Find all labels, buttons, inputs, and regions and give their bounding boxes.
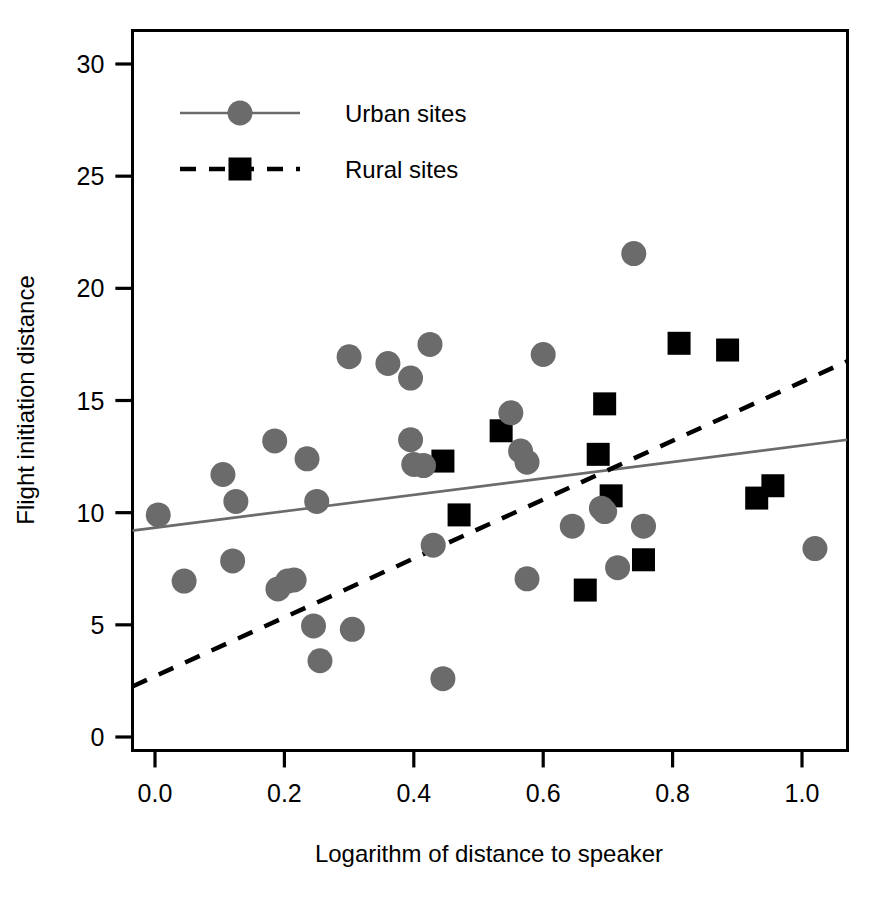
urban-data-point — [421, 533, 446, 558]
legend-label: Rural sites — [345, 156, 458, 183]
urban-data-point — [340, 617, 365, 642]
y-tick-label: 20 — [77, 274, 105, 302]
rural-data-point — [593, 392, 616, 415]
x-tick-label: 0.6 — [526, 779, 561, 807]
urban-data-point — [375, 351, 400, 376]
urban-data-point — [398, 366, 423, 391]
urban-data-point — [223, 489, 248, 514]
rural-data-point — [761, 474, 784, 497]
x-axis-title: Logarithm of distance to speaker — [315, 840, 663, 867]
urban-data-point — [304, 489, 329, 514]
x-tick-label: 1.0 — [785, 779, 820, 807]
x-tick-label: 0.2 — [267, 779, 302, 807]
urban-data-point — [515, 450, 540, 475]
x-tick-label: 0.0 — [138, 779, 173, 807]
urban-data-point — [560, 514, 585, 539]
rural-data-point — [668, 332, 691, 355]
urban-data-point — [210, 462, 235, 487]
y-tick-label: 10 — [77, 499, 105, 527]
rural-data-point — [574, 579, 597, 602]
urban-data-point — [337, 344, 362, 369]
x-tick-label: 0.8 — [655, 779, 690, 807]
y-axis-title: Flight initiation distance — [12, 275, 39, 524]
legend-label: Urban sites — [345, 100, 466, 127]
urban-data-point — [621, 241, 646, 266]
urban-data-point — [146, 502, 171, 527]
legend-square-marker — [229, 158, 252, 181]
urban-data-point — [592, 499, 617, 524]
x-tick-label: 0.4 — [396, 779, 431, 807]
urban-data-point — [498, 400, 523, 425]
urban-data-point — [605, 555, 630, 580]
urban-data-point — [282, 567, 307, 592]
y-tick-label: 5 — [90, 611, 104, 639]
urban-data-point — [301, 613, 326, 638]
urban-data-point — [631, 514, 656, 539]
urban-data-point — [398, 427, 423, 452]
urban-data-point — [220, 548, 245, 573]
y-tick-label: 30 — [77, 50, 105, 78]
rural-data-point — [448, 503, 471, 526]
y-tick-label: 0 — [90, 723, 104, 751]
scatter-plot-figure: 0.00.20.40.60.81.0 051015202530 Urban si… — [0, 0, 879, 900]
urban-data-point — [417, 332, 442, 357]
plot-canvas: 0.00.20.40.60.81.0 051015202530 Urban si… — [0, 0, 879, 900]
urban-data-point — [295, 446, 320, 471]
urban-data-point — [515, 566, 540, 591]
y-tick-label: 25 — [77, 162, 105, 190]
urban-data-point — [802, 536, 827, 561]
urban-data-point — [307, 648, 332, 673]
rural-data-point — [632, 548, 655, 571]
rural-data-point — [587, 443, 610, 466]
urban-data-point — [531, 342, 556, 367]
urban-data-point — [262, 428, 287, 453]
legend-circle-marker — [228, 101, 253, 126]
urban-data-point — [411, 453, 436, 478]
urban-data-point — [430, 666, 455, 691]
y-tick-label: 15 — [77, 387, 105, 415]
rural-data-point — [716, 339, 739, 362]
urban-data-point — [172, 569, 197, 594]
